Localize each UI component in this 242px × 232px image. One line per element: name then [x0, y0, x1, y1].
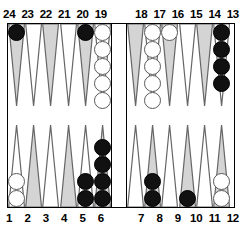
point-number-6: 6 — [92, 210, 110, 226]
board-frame — [7, 23, 235, 208]
point-4[interactable] — [60, 24, 77, 207]
checker-stack-24[interactable] — [8, 24, 25, 41]
bottom-bar-gap — [110, 210, 132, 226]
point-number-12: 12 — [224, 210, 242, 226]
point-number-15: 15 — [187, 6, 205, 22]
checker-white-19-1[interactable] — [94, 24, 111, 41]
point-5[interactable] — [77, 24, 94, 207]
checker-black-24-1[interactable] — [8, 24, 25, 41]
point-triangle-3 — [42, 125, 59, 207]
bottom-left-numbers: 1 2 3 4 5 6 — [0, 210, 110, 226]
checker-black-5-1[interactable] — [77, 190, 94, 207]
checker-black-6-2[interactable] — [94, 173, 111, 190]
checker-stack-17[interactable] — [144, 24, 161, 109]
checker-black-5-2[interactable] — [77, 173, 94, 190]
point-number-14: 14 — [205, 6, 223, 22]
top-left-numbers: 24 23 22 21 20 19 — [0, 6, 110, 22]
checker-white-17-5[interactable] — [144, 92, 161, 109]
checker-white-1-1[interactable] — [8, 190, 25, 207]
checker-stack-5[interactable] — [77, 173, 94, 207]
point-number-4: 4 — [55, 210, 73, 226]
point-number-24: 24 — [0, 6, 18, 22]
point-9[interactable] — [161, 24, 178, 207]
point-number-2: 2 — [18, 210, 36, 226]
point-number-9: 9 — [169, 210, 187, 226]
point-number-20: 20 — [73, 6, 91, 22]
checker-black-13-2[interactable] — [213, 41, 230, 58]
point-1[interactable] — [8, 24, 25, 207]
checker-black-13-1[interactable] — [213, 24, 230, 41]
checker-white-1-2[interactable] — [8, 173, 25, 190]
point-triangle-9 — [161, 125, 178, 207]
checker-white-19-5[interactable] — [94, 92, 111, 109]
point-7[interactable] — [127, 24, 144, 207]
checker-white-19-3[interactable] — [94, 58, 111, 75]
bottom-point-numbers: 1 2 3 4 5 6 7 8 9 10 11 12 — [0, 210, 242, 226]
checker-stack-16[interactable] — [161, 24, 178, 41]
checker-black-6-4[interactable] — [94, 139, 111, 156]
checker-black-13-4[interactable] — [213, 75, 230, 92]
checker-white-12-1[interactable] — [213, 190, 230, 207]
checker-white-19-2[interactable] — [94, 41, 111, 58]
top-bar-gap — [110, 6, 132, 22]
bar[interactable] — [111, 24, 127, 207]
point-number-1: 1 — [0, 210, 18, 226]
checker-black-8-2[interactable] — [144, 173, 161, 190]
point-10[interactable] — [179, 24, 196, 207]
point-number-23: 23 — [18, 6, 36, 22]
checker-stack-13[interactable] — [213, 24, 230, 92]
checker-white-17-1[interactable] — [144, 24, 161, 41]
point-number-11: 11 — [205, 210, 223, 226]
checker-stack-1[interactable] — [8, 173, 25, 207]
checker-stack-19[interactable] — [94, 24, 111, 109]
checker-black-20-1[interactable] — [77, 24, 94, 41]
point-number-22: 22 — [37, 6, 55, 22]
checker-white-17-3[interactable] — [144, 58, 161, 75]
checker-stack-6[interactable] — [94, 139, 111, 207]
point-number-17: 17 — [150, 6, 168, 22]
point-3[interactable] — [42, 24, 59, 207]
point-number-21: 21 — [55, 6, 73, 22]
checker-white-16-1[interactable] — [161, 24, 178, 41]
point-number-16: 16 — [169, 6, 187, 22]
point-number-3: 3 — [37, 210, 55, 226]
checker-stack-20[interactable] — [77, 24, 94, 41]
point-triangle-11 — [196, 125, 213, 207]
point-number-5: 5 — [73, 210, 91, 226]
point-number-19: 19 — [92, 6, 110, 22]
checker-white-19-4[interactable] — [94, 75, 111, 92]
checker-stack-10[interactable] — [179, 190, 196, 207]
checker-black-8-1[interactable] — [144, 190, 161, 207]
point-number-8: 8 — [150, 210, 168, 226]
checker-black-10-1[interactable] — [179, 190, 196, 207]
checker-stack-12[interactable] — [213, 173, 230, 207]
point-2[interactable] — [25, 24, 42, 207]
checker-white-12-2[interactable] — [213, 173, 230, 190]
checker-stack-8[interactable] — [144, 173, 161, 207]
point-number-13: 13 — [224, 6, 242, 22]
point-triangle-7 — [127, 125, 144, 207]
checker-black-6-1[interactable] — [94, 190, 111, 207]
point-number-18: 18 — [132, 6, 150, 22]
top-right-numbers: 18 17 16 15 14 13 — [132, 6, 242, 22]
point-number-7: 7 — [132, 210, 150, 226]
point-number-10: 10 — [187, 210, 205, 226]
checker-black-13-3[interactable] — [213, 58, 230, 75]
checker-white-17-2[interactable] — [144, 41, 161, 58]
point-triangle-2 — [25, 125, 42, 207]
point-triangle-4 — [60, 125, 77, 207]
bottom-right-numbers: 7 8 9 10 11 12 — [132, 210, 242, 226]
checker-white-17-4[interactable] — [144, 75, 161, 92]
backgammon-board-figure: 24 23 22 21 20 19 18 17 16 15 14 13 1 2 … — [0, 0, 242, 232]
point-11[interactable] — [196, 24, 213, 207]
checker-black-6-3[interactable] — [94, 156, 111, 173]
top-point-numbers: 24 23 22 21 20 19 18 17 16 15 14 13 — [0, 6, 242, 22]
